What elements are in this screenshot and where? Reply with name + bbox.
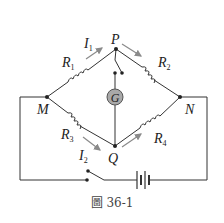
resistor-r3 [47,97,115,146]
wheatstone-bridge-diagram: G P M N Q R1 R2 R3 R4 I1 I2 圖 36-1 [0,0,224,223]
figure-caption: 圖 36-1 [91,196,134,210]
resistor-r2-label: R2 [157,55,171,72]
battery-icon [135,171,152,189]
galvanometer-switch-contact-left [113,71,117,75]
resistor-r1 [47,49,116,97]
galvanometer-icon: G [107,89,123,105]
current-i2-label: I2 [78,148,88,165]
svg-text:G: G [111,91,120,105]
current-i1-label: I1 [83,36,93,53]
resistor-r3-label: R3 [60,127,74,144]
node-m-label: M [36,102,50,117]
resistor-r1-label: R1 [61,55,75,72]
node-q-label: Q [108,151,118,166]
node-m-dot [45,95,49,99]
node-n-dot [178,95,182,99]
main-switch [85,169,104,182]
node-p-dot [114,47,118,51]
node-q-dot [113,144,117,148]
node-p-label: P [110,32,120,47]
galvanometer-switch-contact-right [120,71,124,75]
resistor-r4-label: R4 [153,131,167,148]
resistor-r4 [115,97,180,146]
node-n-label: N [184,102,195,117]
resistor-r2 [116,49,180,97]
